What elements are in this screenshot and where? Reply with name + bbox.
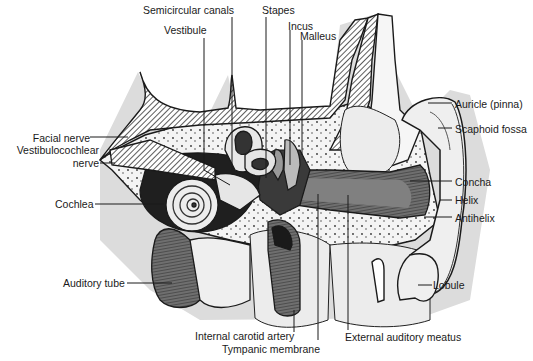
label-auditory-tube: Auditory tube — [63, 277, 125, 289]
lobule — [372, 254, 438, 302]
label-external-auditory-meatus: External auditory meatus — [345, 331, 461, 343]
label-semicircular-canals: Semicircular canals — [143, 4, 234, 16]
label-internal-carotid-artery: Internal carotid artery — [195, 330, 294, 342]
label-malleus: Malleus — [300, 30, 336, 42]
label-vestibulocochlear-nerve-line1: Vestibulocochlear — [0, 144, 99, 156]
label-cochlea: Cochlea — [55, 198, 94, 210]
label-antihelix: Antihelix — [455, 212, 495, 224]
label-stapes: Stapes — [262, 4, 295, 16]
ear-anatomy-illustration — [0, 0, 533, 361]
label-vestibule: Vestibule — [164, 24, 207, 36]
label-concha: Concha — [455, 176, 491, 188]
label-scaphoid-fossa: Scaphoid fossa — [455, 123, 527, 135]
label-tympanic-membrane: Tympanic membrane — [222, 343, 320, 355]
label-helix: Helix — [455, 194, 478, 206]
label-vestibulocochlear-nerve-line2: nerve — [0, 157, 99, 169]
label-facial-nerve: Facial nerve — [0, 132, 90, 144]
label-lobule: Lobule — [433, 279, 465, 291]
label-auricle: Auricle (pinna) — [455, 98, 523, 110]
